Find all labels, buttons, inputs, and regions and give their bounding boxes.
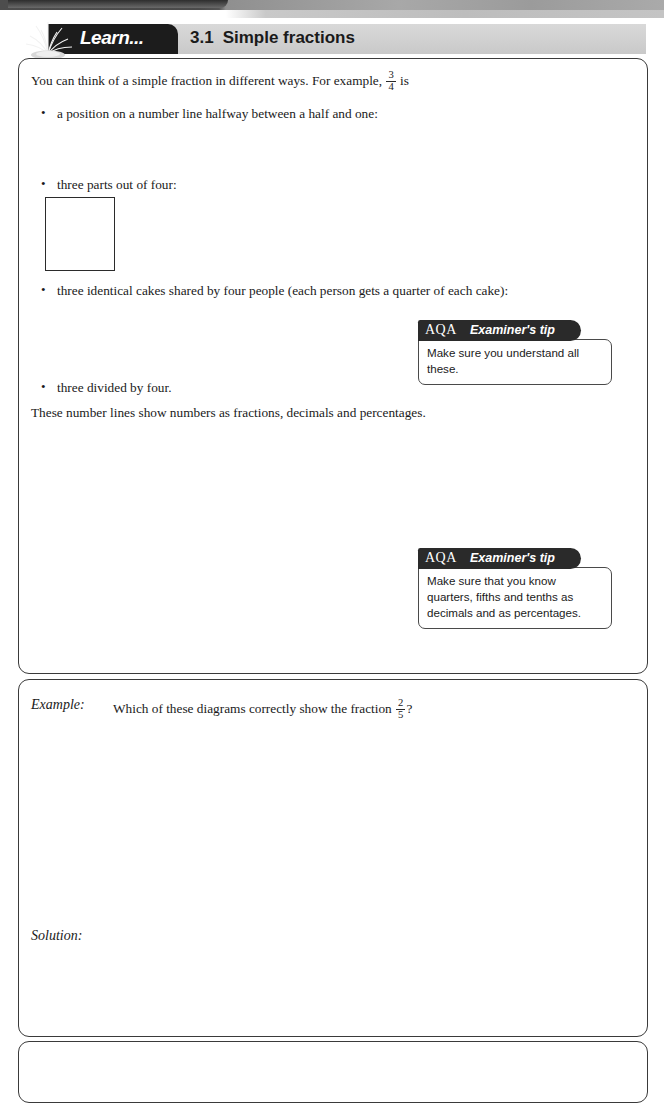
bullet-three-divided: three divided by four. [57,380,171,396]
aqa-logo: AQA [425,550,457,566]
plant-icon [18,14,80,58]
example-question-text: Which of these diagrams correctly show t… [113,701,392,716]
example-content-box: Example: Which of these diagrams correct… [18,679,648,1037]
fraction-numerator: 3 [386,70,395,81]
examiner-tip-2-title: Examiner's tip [470,551,555,565]
examiner-tip-2-body: Make sure that you know quarters, fifths… [418,567,612,629]
examiner-tip-2-tab: AQA Examiner's tip [418,548,581,569]
grid-three-quarters [45,197,115,271]
examiner-tip-1-body: Make sure you understand all these. [418,339,612,385]
next-content-box [18,1041,648,1103]
bullet-three-parts: three parts out of four: [57,177,177,193]
intro-text-before: You can think of a simple fraction in di… [31,73,382,88]
examiner-tip-1: AQA Examiner's tip Make sure you underst… [418,320,612,385]
intro-fraction: 34 [386,70,395,93]
solution-label: Solution: [31,928,82,944]
scan-edge-tab [8,0,228,8]
bullet-number-line: a position on a number line halfway betw… [57,106,378,122]
bullet-three-cakes: three identical cakes shared by four peo… [57,283,617,299]
fraction-numerator: 2 [396,698,405,709]
examiner-tip-2: AQA Examiner's tip Make sure that you kn… [418,548,612,629]
page-title: 3.1Simple fractions [190,28,355,48]
aqa-logo: AQA [425,322,457,338]
fraction-denominator: 4 [386,81,395,93]
examiner-tip-1-tab: AQA Examiner's tip [418,320,581,341]
examiner-tip-1-title: Examiner's tip [470,323,555,337]
intro-text-after: is [400,73,409,88]
fraction-denominator: 5 [396,709,405,721]
number-lines-intro: These number lines show numbers as fract… [31,404,426,422]
example-question-fraction: 25 [396,698,405,721]
intro-paragraph: You can think of a simple fraction in di… [31,70,409,93]
scan-edge-band-secondary [0,10,664,18]
example-question: Which of these diagrams correctly show t… [113,698,412,721]
example-label: Example: [31,697,85,713]
section-title: Simple fractions [223,28,355,47]
scan-edge-band [0,0,664,10]
section-number: 3.1 [190,28,214,47]
example-question-suffix: ? [406,701,412,716]
section-header: Learn... 3.1Simple fractions [18,24,646,54]
learn-badge-label: Learn... [80,27,144,49]
